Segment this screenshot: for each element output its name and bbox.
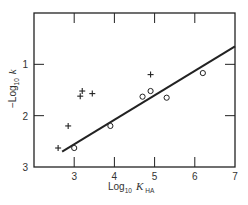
plus-marker [77, 93, 83, 99]
fit-line [62, 46, 235, 151]
y-axis-label-sub: 10 [13, 78, 20, 86]
y-tick-label: 3 [22, 162, 28, 173]
y-axis-label-main: −Log [7, 85, 18, 108]
circle-marker [72, 145, 77, 150]
plot-frame [34, 13, 235, 167]
y-tick-label: 1 [22, 59, 28, 70]
x-axis-label-main: Log [108, 181, 125, 192]
x-tick-label: 3 [71, 171, 77, 182]
chart: 34567 123 Log10KHA −Log10k [0, 0, 248, 205]
circle-marker [200, 70, 205, 75]
axis-ticks [34, 13, 235, 167]
x-tick-label: 6 [192, 171, 198, 182]
x-axis-label-var: K [135, 180, 144, 192]
plus-marker [79, 88, 85, 94]
circle-marker [148, 88, 153, 93]
plus-marker [55, 145, 61, 151]
circle-marker [164, 95, 169, 100]
y-axis-label-var: k [6, 68, 18, 74]
x-tick-labels: 34567 [71, 171, 238, 182]
y-tick-labels: 123 [22, 59, 28, 173]
circle-marker [108, 123, 113, 128]
x-tick-label: 5 [152, 171, 158, 182]
plus-marker [89, 91, 95, 97]
y-axis-label: −Log10k [6, 68, 20, 108]
y-tick-label: 2 [22, 111, 28, 122]
x-axis-label-sub: 10 [125, 187, 133, 194]
x-axis-label-var-sub: HA [145, 187, 155, 194]
regression-line [62, 46, 235, 151]
circle-marker [140, 94, 145, 99]
x-tick-label: 7 [232, 171, 238, 182]
plus-marker [65, 123, 71, 129]
x-axis-label: Log10KHA [108, 180, 155, 194]
plus-marker [148, 72, 154, 78]
